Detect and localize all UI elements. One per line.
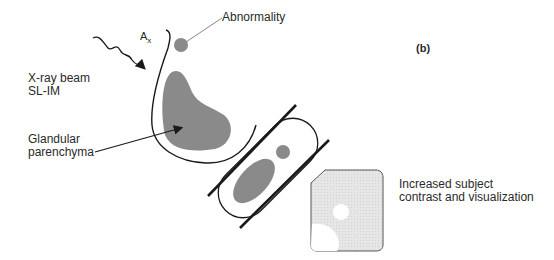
slim-label: SL-IM — [28, 85, 60, 98]
abnormality-dot — [174, 38, 188, 52]
glandular-label-line2: parenchyma — [28, 146, 94, 159]
diagram-graphics — [0, 0, 554, 260]
diagram-canvas: (b) Ax Abnormality X-ray beam SL-IM Glan… — [0, 0, 554, 260]
result-label-line2: contrast and visualization — [399, 191, 534, 204]
abnormality-leader — [186, 18, 222, 42]
abnormality-label: Abnormality — [222, 11, 285, 24]
xray-wave-arrow — [93, 37, 144, 68]
panel-label: (b) — [416, 42, 430, 55]
compressed-abnormality — [276, 145, 290, 159]
ax-label-sub: x — [147, 36, 151, 45]
glandular-blob — [162, 71, 231, 150]
ax-label: Ax — [140, 30, 151, 47]
compressed-glandular — [226, 152, 283, 211]
result-image-spot-small — [333, 204, 349, 220]
